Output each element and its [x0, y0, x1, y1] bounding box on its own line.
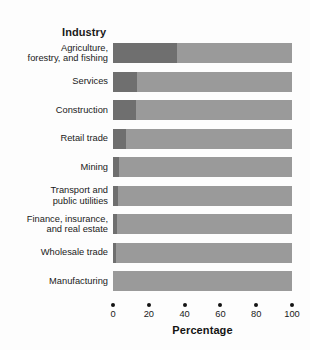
category-label: Mining — [0, 162, 108, 173]
bar-row — [113, 271, 292, 291]
bar-row — [113, 214, 292, 234]
x-tick-label: 40 — [170, 309, 200, 319]
category-label-line: and real estate — [0, 224, 108, 235]
category-label-line: Services — [0, 76, 108, 87]
x-tick-label: 60 — [205, 309, 235, 319]
bar-row — [113, 100, 292, 120]
bar-segment-dark — [113, 43, 177, 63]
bar-segment-light — [113, 271, 292, 291]
category-label-line: Transport and — [0, 185, 108, 196]
x-tick-label: 100 — [277, 309, 307, 319]
bar-segment-light — [117, 214, 292, 234]
category-label: Construction — [0, 105, 108, 116]
bar-segment-light — [177, 43, 292, 63]
x-tick-mark — [254, 303, 258, 307]
bar-segment-light — [118, 186, 292, 206]
category-label-line: Retail trade — [0, 133, 108, 144]
category-label-line: public utilities — [0, 196, 108, 207]
category-label: Finance, insurance,and real estate — [0, 214, 108, 235]
category-label: Agriculture,forestry, and fishing — [0, 43, 108, 64]
category-label-line: Manufacturing — [0, 276, 108, 287]
category-label-line: Finance, insurance, — [0, 214, 108, 225]
bar-segment-light — [119, 157, 292, 177]
plot-area — [113, 43, 292, 300]
x-tick-mark — [183, 303, 187, 307]
chart-figure: Industry 020406080100 Percentage Agricul… — [0, 0, 310, 350]
bar-segment-dark — [113, 129, 126, 149]
bar-row — [113, 157, 292, 177]
x-axis-title: Percentage — [113, 324, 292, 336]
category-label: Manufacturing — [0, 276, 108, 287]
bar-segment-dark — [113, 100, 136, 120]
bar-row — [113, 243, 292, 263]
category-label-line: forestry, and fishing — [0, 53, 108, 64]
x-tick-label: 0 — [98, 309, 128, 319]
bar-row — [113, 186, 292, 206]
category-label-line: Mining — [0, 162, 108, 173]
category-label-line: Agriculture, — [0, 43, 108, 54]
bar-row — [113, 72, 292, 92]
bar-segment-light — [136, 100, 292, 120]
category-label: Wholesale trade — [0, 247, 108, 258]
x-tick-label: 80 — [241, 309, 271, 319]
bar-row — [113, 129, 292, 149]
bar-segment-light — [116, 243, 292, 263]
bar-segment-dark — [113, 72, 137, 92]
bar-segment-light — [137, 72, 292, 92]
category-label-line: Wholesale trade — [0, 247, 108, 258]
category-label: Retail trade — [0, 133, 108, 144]
x-tick-mark — [218, 303, 222, 307]
bar-row — [113, 43, 292, 63]
bar-segment-light — [126, 129, 292, 149]
category-label: Services — [0, 76, 108, 87]
x-tick-mark — [111, 303, 115, 307]
category-label-line: Construction — [0, 105, 108, 116]
x-tick-mark — [147, 303, 151, 307]
x-tick-mark — [290, 303, 294, 307]
industry-heading: Industry — [62, 26, 112, 38]
category-label: Transport andpublic utilities — [0, 185, 108, 206]
x-tick-label: 20 — [134, 309, 164, 319]
